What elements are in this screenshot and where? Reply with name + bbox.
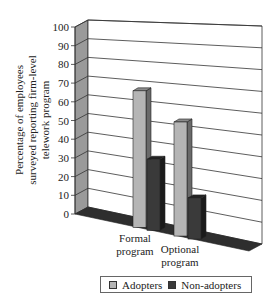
- bar-non-adopters-0: [147, 156, 165, 230]
- category-label: Optional: [161, 243, 200, 255]
- y-title-line-3: telework program: [39, 80, 51, 159]
- y-axis-ticks: 0102030405060708090100: [53, 21, 76, 220]
- y-tick-label: 90: [58, 40, 70, 52]
- y-tick-label: 50: [58, 115, 70, 127]
- legend-item-adopters: Adopters: [109, 279, 162, 291]
- y-tick-label: 60: [58, 96, 70, 108]
- y-tick-label: 20: [58, 171, 70, 183]
- y-tick-label: 40: [58, 133, 70, 145]
- y-tick-label: 30: [58, 152, 70, 164]
- y-title-line-2: surveyed reporting firm-level: [26, 55, 38, 185]
- bar-non-adopters-1: [188, 195, 206, 239]
- swatch-adopters: [109, 281, 117, 289]
- bar-chart: 0102030405060708090100 FormalprogramOpti…: [0, 0, 272, 307]
- y-title-line-1: Percentage of employees: [13, 65, 25, 175]
- swatch-non-adopters: [168, 281, 176, 289]
- legend-label: Non-adopters: [181, 279, 241, 291]
- legend: Adopters Non-adopters: [100, 276, 252, 293]
- category-label: Formal: [119, 232, 151, 244]
- category-label: program: [116, 245, 154, 257]
- y-tick-label: 100: [53, 21, 70, 33]
- category-label: program: [161, 256, 199, 268]
- y-tick-label: 80: [58, 58, 70, 70]
- legend-item-non-adopters: Non-adopters: [168, 279, 241, 291]
- y-axis-title: Percentage of employees surveyed reporti…: [13, 55, 51, 185]
- legend-label: Adopters: [122, 279, 162, 291]
- y-tick-label: 70: [58, 77, 70, 89]
- y-tick-label: 0: [64, 208, 70, 220]
- y-tick-label: 10: [58, 189, 70, 201]
